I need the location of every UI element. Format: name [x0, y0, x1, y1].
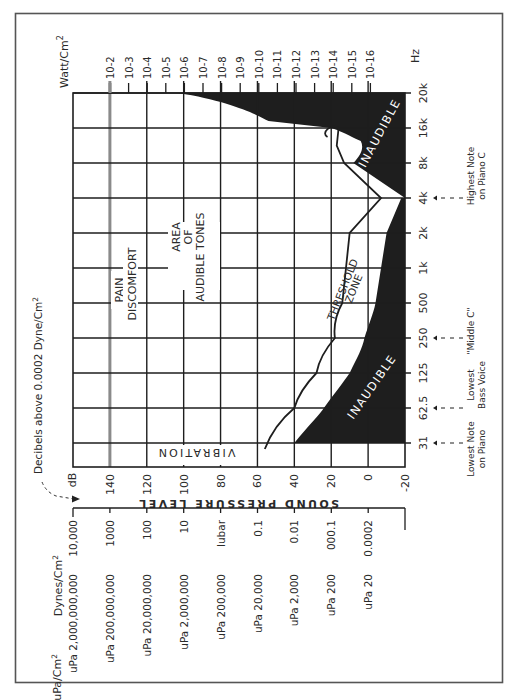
- note-bass-2: Bass Voice: [477, 361, 487, 409]
- upa-tick-1: uPa 200,000,000: [104, 574, 116, 663]
- note-highest-1: Highest Note: [466, 146, 476, 205]
- dyne-tick-6: 0.01: [288, 520, 300, 543]
- vibration-label: VIBRATION: [157, 446, 236, 459]
- freq-tick-1k: 1k: [417, 261, 430, 275]
- dyne-tick-2: 100: [141, 520, 153, 540]
- upa-tick-8: uPa 20: [362, 574, 374, 610]
- db-unit-label: dB: [66, 473, 79, 488]
- note-arrow-markers: [433, 196, 466, 446]
- db-tick--20: -20: [399, 474, 412, 492]
- note-middle-c: "Middle C": [466, 307, 476, 354]
- dyne-axis-header: Dynes/Cm2: [51, 555, 65, 617]
- freq-tick-250: 250: [417, 328, 430, 349]
- dyne-tick-0: 10,000: [67, 520, 79, 557]
- dyne-tick-4: lubar: [215, 519, 227, 547]
- watt-tick-10-16: 10-16: [365, 50, 376, 79]
- upa-tick-6: uPa 2,000: [288, 574, 300, 626]
- note-lowest-piano-2: on Piano: [477, 429, 487, 468]
- dyne-tick-5: 0.1: [252, 520, 264, 537]
- note-arrow-icon: [433, 441, 437, 446]
- watt-tick-10-8: 10-8: [217, 56, 228, 79]
- watt-tick-10-11: 10-11: [272, 50, 283, 79]
- freq-tick-500: 500: [417, 293, 430, 314]
- db-tick-120: 120: [141, 474, 154, 495]
- db-tick-60: 60: [251, 474, 264, 488]
- freq-tick-16k: 16k: [417, 117, 430, 138]
- db-tick-20: 20: [325, 474, 338, 488]
- upa-axis-header: uPa/Cm2: [50, 654, 64, 700]
- freq-tick-31: 31: [417, 436, 430, 450]
- note-arrow-icon: [433, 336, 437, 341]
- freq-tick-20k: 20k: [417, 82, 430, 103]
- db-tick-0: 0: [362, 474, 375, 481]
- upa-tick-7: uPa 200: [325, 574, 337, 616]
- db-tick-40: 40: [288, 474, 301, 488]
- caption-arrowhead-icon: [72, 496, 80, 503]
- upa-tick-3: uPa 2,000,000: [178, 574, 190, 650]
- note-lowest-piano-1: Lowest Note: [466, 421, 476, 477]
- dyne-tick-1: 1000: [104, 520, 116, 547]
- upa-tick-0: uPa 2,000,000,000: [67, 574, 79, 673]
- watt-tick-10-4: 10-4: [142, 56, 153, 79]
- watt-tick-10-5: 10-5: [161, 56, 172, 79]
- hearing-chart-figure: 3162.51252505001k2k4k8k16k20k10-210-310-…: [0, 0, 513, 700]
- decibel-caption: Decibels above 0.0002 Dyne/Cm2: [31, 297, 44, 474]
- audibility-chart: 3162.51252505001k2k4k8k16k20k10-210-310-…: [0, 0, 513, 700]
- upa-tick-5: uPa 20,000: [252, 574, 264, 633]
- freq-tick-2k: 2k: [417, 226, 430, 240]
- dyne-tick-3: 10: [178, 520, 190, 533]
- watt-tick-10-13: 10-13: [310, 50, 321, 79]
- upa-tick-2: uPa 20,000,000: [141, 574, 153, 656]
- note-highest-2: on Piano C: [477, 152, 487, 200]
- watt-tick-10-12: 10-12: [291, 50, 302, 79]
- pressure-scale: 10,000100010010lubar0.10.01000.10.0002uP…: [67, 508, 405, 673]
- db-tick-140: 140: [104, 474, 117, 495]
- db-tick-100: 100: [178, 474, 191, 495]
- note-arrow-icon: [433, 406, 437, 411]
- upa-tick-4: uPa 200,000: [215, 574, 227, 640]
- watt-tick-10-10: 10-10: [254, 50, 265, 79]
- db-tick-80: 80: [215, 474, 228, 488]
- watt-tick-10-9: 10-9: [235, 56, 246, 79]
- note-arrow-icon: [433, 196, 437, 201]
- note-bass-1: Lowest: [466, 369, 476, 401]
- watt-tick-10-15: 10-15: [347, 50, 358, 79]
- watt-tick-10-14: 10-14: [328, 50, 339, 79]
- hz-unit-label: Hz: [409, 49, 422, 63]
- freq-tick-62.5: 62.5: [417, 396, 430, 421]
- watt-tick-10-6: 10-6: [179, 56, 190, 79]
- discomfort-label: DISCOMFORT: [126, 247, 139, 320]
- freq-tick-4k: 4k: [417, 191, 430, 205]
- musical-notes: Lowest Note on Piano Lowest Bass Voice "…: [433, 146, 487, 477]
- dyne-tick-8: 0.0002: [362, 520, 374, 557]
- watt-tick-10-7: 10-7: [198, 56, 209, 79]
- freq-tick-8k: 8k: [417, 156, 430, 170]
- area-label-3: AUDIBLE TONES: [194, 213, 207, 302]
- watt-axis-header: Watt/Cm2: [56, 35, 71, 88]
- freq-tick-125: 125: [417, 363, 430, 384]
- watt-tick-10-2: 10-2: [105, 56, 116, 79]
- dyne-tick-7: 000.1: [325, 520, 337, 550]
- watt-tick-10-3: 10-3: [124, 56, 135, 79]
